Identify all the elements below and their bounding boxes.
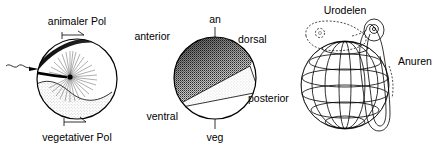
urodele-head-circle <box>315 28 324 37</box>
label-urodelen: Urodelen <box>324 4 367 16</box>
label-anuren: Anuren <box>398 55 432 67</box>
figure-canvas: animaler Pol vegetativer Pol <box>0 0 440 149</box>
sphere-grid <box>301 41 389 129</box>
sperm-tail <box>6 65 30 68</box>
label-animal-pole: animaler Pol <box>48 15 106 27</box>
animal-pole-marker <box>62 31 84 39</box>
label-posterior: posterior <box>248 92 289 104</box>
parallel-s1 <box>302 85 388 103</box>
anuran-tail-inner-line <box>367 34 386 126</box>
sperm-nucleus <box>67 74 72 79</box>
label-dorsal: dorsal <box>238 33 267 45</box>
label-anterior: anterior <box>134 30 170 42</box>
label-an: an <box>209 13 221 25</box>
label-ventral: ventral <box>146 110 178 122</box>
panel-a-fertilized-egg: animaler Pol vegetativer Pol <box>6 15 122 143</box>
anuran-tail-fin-dashed <box>389 66 393 98</box>
urodele-larva-outline <box>306 21 366 51</box>
parallel-eq-upper <box>302 69 388 87</box>
urodele-eye <box>319 32 322 35</box>
label-veg: veg <box>207 131 224 143</box>
parallel-n1 <box>309 54 381 70</box>
egg-a-interior <box>30 39 122 128</box>
anuran-eye-outer <box>370 25 379 34</box>
amphibian-development-figure: animaler Pol vegetativer Pol <box>0 0 440 149</box>
panel-c-larvae-comparison: Urodelen Anuren <box>301 4 432 131</box>
label-vegetal-pole: vegetativer Pol <box>42 131 111 143</box>
panel-b-egg-axes: an veg anterior dorsal posterior ventral <box>134 13 289 143</box>
anuran-larva-outline <box>360 24 390 131</box>
egg-sphere <box>301 41 389 129</box>
anuran-head <box>364 19 384 41</box>
